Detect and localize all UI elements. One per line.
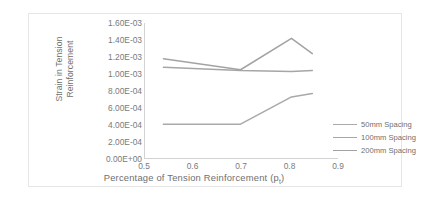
plot-area (144, 23, 338, 159)
legend-line-icon (333, 124, 357, 125)
y-axis-tick-label: 1.20E-03 (84, 52, 142, 62)
x-axis-tick-label: 0.8 (275, 161, 305, 171)
legend-line-icon (333, 137, 357, 138)
y-axis-title-line-1: Strain in Tension (54, 14, 65, 124)
x-axis-tick-label: 0.7 (226, 161, 256, 171)
plot-lines (145, 23, 339, 159)
y-axis-title-line-2: Reinforcement (65, 14, 76, 124)
y-axis-tick-label: 1.60E-03 (84, 18, 142, 28)
x-axis-title-tail: ) (281, 172, 284, 183)
legend-line-icon (333, 150, 357, 151)
chart-container: Strain in Tension Reinforcement 0.00E+00… (28, 13, 402, 187)
legend-item[interactable]: 50mm Spacing (333, 118, 399, 131)
y-axis-tick-label: 8.00E-04 (84, 86, 142, 96)
y-axis-tick-label: 4.00E-04 (84, 120, 142, 130)
x-axis-title-text: Percentage of Tension Reinforcement (p (104, 172, 279, 183)
y-axis-tick-label: 1.00E-03 (84, 69, 142, 79)
y-axis-tick-label: 2.00E-04 (84, 137, 142, 147)
legend-item[interactable]: 100mm Spacing (333, 131, 399, 144)
legend-item-label: 50mm Spacing (361, 120, 412, 129)
y-axis-tick-label: 1.40E-03 (84, 35, 142, 45)
chart-legend: 50mm Spacing100mm Spacing200mm Spacing (333, 118, 399, 157)
y-axis-tick-label: 6.00E-04 (84, 103, 142, 113)
series-line (163, 94, 312, 125)
x-axis-title: Percentage of Tension Reinforcement (pt) (29, 172, 359, 185)
legend-item-label: 100mm Spacing (361, 133, 416, 142)
y-axis-title: Strain in Tension Reinforcement (54, 14, 76, 124)
x-axis-tick-label: 0.6 (178, 161, 208, 171)
legend-item[interactable]: 200mm Spacing (333, 144, 399, 157)
x-axis-tick-label: 0.9 (323, 161, 353, 171)
series-line (163, 38, 312, 69)
legend-item-label: 200mm Spacing (361, 146, 416, 155)
x-axis-tick-label: 0.5 (129, 161, 159, 171)
